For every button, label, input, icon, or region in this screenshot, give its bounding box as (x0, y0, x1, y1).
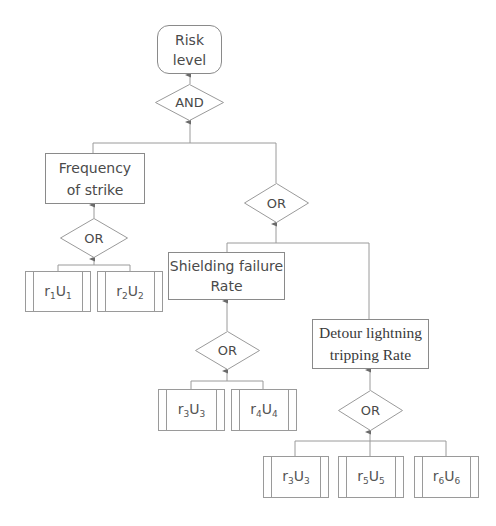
basic-event-label: r4U4 (250, 401, 277, 419)
basic-event-label: r3U3 (282, 468, 309, 486)
shielding-or-gate-label: OR (195, 331, 260, 370)
detour-or-gate-label: OR (338, 390, 403, 431)
basic-event-r3u3-shielding: r3U3 (158, 389, 225, 431)
basic-event-r6u6: r6U6 (414, 456, 479, 498)
frequency-or-gate-label: OR (60, 218, 128, 258)
rate-or-gate: OR (244, 183, 309, 223)
basic-event-label: r1U1 (44, 283, 71, 301)
basic-event-label: r6U6 (433, 468, 460, 486)
basic-event-r2u2: r2U2 (97, 271, 163, 312)
and-gate-label: AND (155, 84, 224, 121)
detour-lightning-tripping-rate-node: Detour lightning tripping Rate (312, 319, 429, 369)
basic-event-label: r3U3 (178, 401, 205, 419)
and-gate: AND (155, 84, 224, 121)
risk-level-node: Risk level (157, 25, 222, 74)
basic-event-r1u1: r1U1 (25, 271, 91, 312)
basic-event-r3u3-detour: r3U3 (263, 456, 329, 498)
fault-tree-diagram: Risk level AND Frequency of strike OR r1… (0, 0, 496, 526)
shielding-or-gate: OR (195, 331, 260, 370)
basic-event-r4u4: r4U4 (231, 389, 297, 431)
basic-event-r5u5: r5U5 (338, 456, 404, 498)
basic-event-label: r5U5 (357, 468, 384, 486)
shielding-label-line1: Shielding failure (170, 256, 283, 276)
detour-label-line2: tripping Rate (330, 344, 411, 366)
basic-event-label: r2U2 (116, 283, 143, 301)
frequency-or-gate: OR (60, 218, 128, 258)
frequency-of-strike-label: Frequency of strike (50, 157, 140, 201)
risk-level-label-line1: Risk (175, 30, 204, 50)
shielding-label-line2: Rate (210, 276, 242, 296)
detour-or-gate: OR (338, 390, 403, 431)
shielding-failure-rate-node: Shielding failure Rate (168, 252, 285, 300)
frequency-of-strike-node: Frequency of strike (45, 153, 145, 204)
rate-or-gate-label: OR (244, 183, 309, 223)
detour-label-line1: Detour lightning (319, 322, 422, 344)
risk-level-label-line2: level (173, 50, 206, 70)
